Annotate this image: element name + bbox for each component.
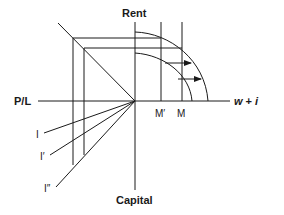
ray-i [44,101,135,133]
i-prime-label: I′ [40,151,45,162]
diagonal-45-line [58,23,135,101]
m-prime-label: M′ [155,108,165,119]
capital-label: Capital [116,194,153,206]
i-symbol: i [255,95,259,107]
four-quadrant-diagram: Rent Capital P/L w + i M′ M I I′ I″ [0,0,284,215]
w-plus-i-label: w + i [234,95,259,107]
i-double-prime-label: I″ [44,183,51,194]
m-label: M [177,108,185,119]
inner-arc [135,53,192,101]
i-label: I [36,129,39,140]
pl-label: P/L [14,95,31,107]
rent-label: Rent [122,7,147,19]
plus-symbol: + [243,95,256,107]
